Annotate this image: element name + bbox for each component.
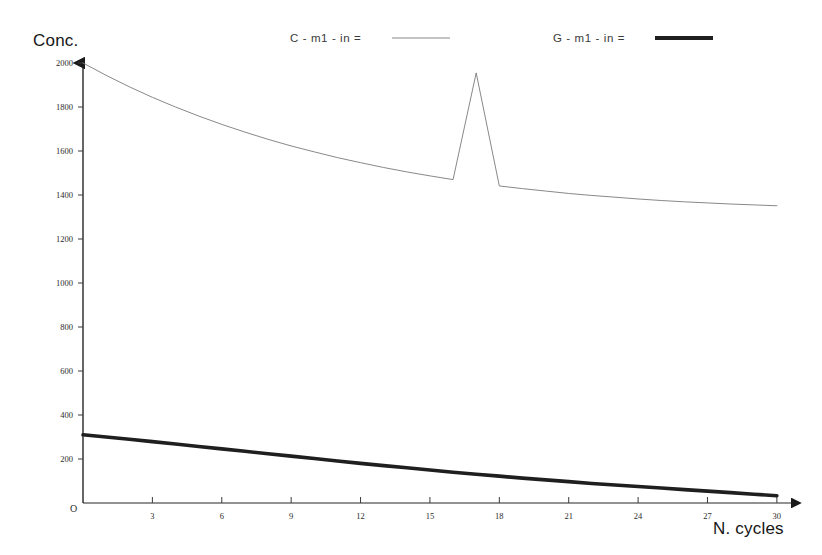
origin-label: O (70, 503, 77, 514)
x-tick-label: 15 (426, 511, 435, 521)
y-tick-label: 800 (60, 322, 73, 332)
y-tick-label: 600 (60, 366, 73, 376)
series-line-c (83, 63, 777, 206)
y-tick-label: 1800 (56, 102, 73, 112)
x-tick-label: 3 (150, 511, 154, 521)
y-tick-label: 2000 (56, 58, 73, 68)
y-tick-label: 1200 (56, 234, 73, 244)
x-tick-label: 18 (495, 511, 504, 521)
y-tick-group: 200400600800100012001400160018002000 (56, 58, 83, 464)
x-tick-group: 36912151821242730 (150, 497, 781, 521)
concentration-chart: 200400600800100012001400160018002000 369… (0, 0, 822, 555)
y-tick-label: 1400 (56, 190, 73, 200)
legend-label-1: G - m1 - in = (553, 32, 625, 44)
y-tick-label: 400 (60, 410, 73, 420)
legend-label-0: C - m1 - in = (290, 32, 361, 44)
x-tick-label: 21 (564, 511, 573, 521)
x-axis-title: N. cycles (713, 519, 784, 538)
series-line-g (83, 435, 777, 496)
x-tick-label: 12 (356, 511, 365, 521)
series-group (83, 63, 777, 496)
chart-legend: C - m1 - in =G - m1 - in = (290, 32, 713, 44)
x-tick-label: 27 (703, 511, 712, 521)
y-tick-label: 200 (60, 454, 73, 464)
chart-canvas: 200400600800100012001400160018002000 369… (0, 0, 822, 555)
y-tick-label: 1600 (56, 146, 73, 156)
y-tick-label: 1000 (56, 278, 73, 288)
y-axis-title: Conc. (33, 31, 78, 50)
x-tick-label: 9 (289, 511, 293, 521)
x-tick-label: 6 (220, 511, 224, 521)
x-tick-label: 24 (634, 511, 643, 521)
